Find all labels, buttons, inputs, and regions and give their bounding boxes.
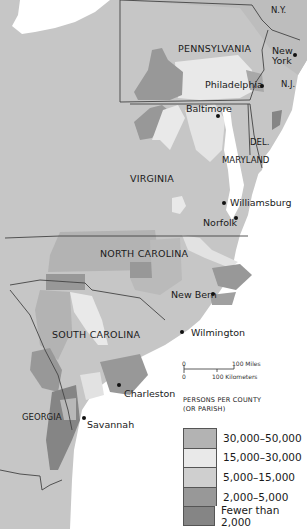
legend-label: 5,000–15,000 <box>223 471 295 483</box>
legend-item: Fewer than 2,000 <box>183 506 307 526</box>
state-label-north-carolina: NORTH CAROLINA <box>100 249 188 259</box>
legend-label: Fewer than 2,000 <box>221 504 307 528</box>
city-label-williamsburg: Williamsburg <box>230 198 292 208</box>
map-legend: PERSONS PER COUNTY (OR PARISH) 30,000–50… <box>183 396 307 414</box>
state-label-georgia: GEORGIA <box>22 413 61 422</box>
state-label-south-carolina: SOUTH CAROLINA <box>52 330 140 340</box>
city-marker-savannah <box>82 416 86 420</box>
scale-bar: 0 100 Miles 0 100 Kilometers <box>182 360 262 382</box>
city-label-baltimore: Baltimore <box>186 104 232 114</box>
state-label-nj: N.J. <box>281 80 295 89</box>
city-marker-new-york <box>293 53 297 57</box>
legend-item: 30,000–50,000 <box>183 428 307 448</box>
state-label-pennsylvania: PENNSYLVANIA <box>178 44 251 54</box>
state-label-maryland: MARYLAND <box>222 156 269 165</box>
legend-subtitle: (OR PARISH) <box>183 405 307 414</box>
legend-swatch <box>183 506 215 526</box>
legend-item: 15,000–30,000 <box>183 448 307 468</box>
state-label-virginia: VIRGINIA <box>130 174 174 184</box>
city-label-wilmington: Wilmington <box>191 328 245 338</box>
city-label-savannah: Savannah <box>87 420 134 430</box>
legend-label: 15,000–30,000 <box>223 451 302 463</box>
city-marker-wilmington <box>180 330 184 334</box>
city-marker-philadelphia <box>260 84 264 88</box>
legend-swatch <box>183 487 217 507</box>
state-label-delaware: DEL. <box>250 138 269 147</box>
city-marker-williamsburg <box>222 201 226 205</box>
city-marker-charleston <box>117 383 121 387</box>
scale-miles-zero: 0 <box>182 360 186 367</box>
city-label-new-bern: New Bern <box>171 290 217 300</box>
legend-swatch <box>183 448 217 468</box>
city-label-new-york-2: York <box>272 56 292 66</box>
state-label-ny: N.Y. <box>271 6 286 15</box>
legend-title: PERSONS PER COUNTY <box>183 396 307 405</box>
scale-km-label: 100 Kilometers <box>212 373 257 380</box>
city-label-charleston: Charleston <box>124 389 175 399</box>
city-marker-new-bern <box>211 292 215 296</box>
legend-item: 5,000–15,000 <box>183 467 307 487</box>
legend-label: 2,000–5,000 <box>223 491 288 503</box>
city-label-philadelphia: Philadelphia <box>205 80 263 90</box>
city-label-norfolk: Norfolk <box>203 218 237 228</box>
legend-swatch <box>183 428 217 448</box>
city-marker-norfolk <box>234 216 238 220</box>
scale-miles-label: 100 Miles <box>232 360 261 367</box>
legend-swatch <box>183 467 217 487</box>
legend-label: 30,000–50,000 <box>223 432 302 444</box>
city-marker-baltimore <box>216 114 220 118</box>
scale-km-zero: 0 <box>182 373 186 380</box>
